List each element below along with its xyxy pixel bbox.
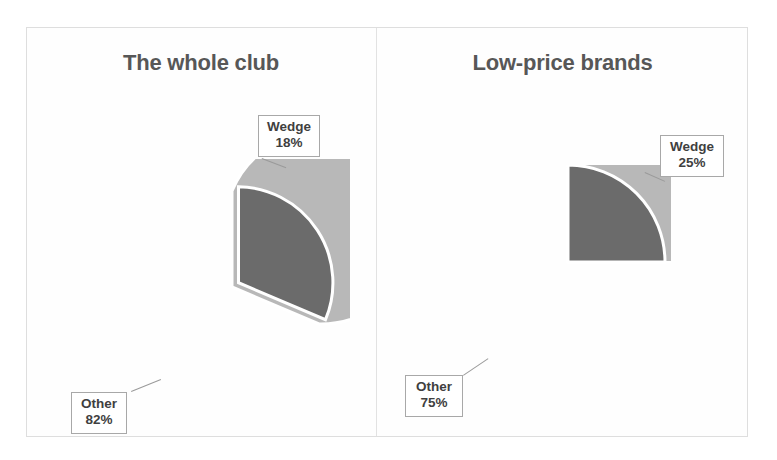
callout-wedge-value: 25% <box>667 155 717 171</box>
callout-other: Other 75% <box>405 375 463 417</box>
figure-canvas: The whole club Wedge 18% Other 82% Low <box>0 0 777 460</box>
callout-other-name: Other <box>78 396 120 412</box>
leader-line-other <box>131 379 161 392</box>
pie-chart-low-price-brands <box>471 165 671 365</box>
chart-panel-low-price-brands: Low-price brands Wedge 25% Other 75% <box>377 27 748 437</box>
chart-title-low-price-brands: Low-price brands <box>377 50 748 76</box>
callout-wedge-value: 18% <box>265 135 313 151</box>
chart-title-whole-club: The whole club <box>26 50 376 76</box>
callout-other-value: 82% <box>78 412 120 428</box>
callout-other: Other 82% <box>71 392 127 434</box>
callout-other-value: 75% <box>412 395 456 411</box>
callout-wedge-name: Wedge <box>667 139 717 155</box>
callout-wedge: Wedge 25% <box>660 135 724 177</box>
callout-wedge-name: Wedge <box>265 119 313 135</box>
callout-other-name: Other <box>412 379 456 395</box>
pie-chart-whole-club <box>110 159 350 359</box>
chart-panel-whole-club: The whole club Wedge 18% Other 82% <box>26 27 376 437</box>
callout-wedge: Wedge 18% <box>258 115 320 157</box>
